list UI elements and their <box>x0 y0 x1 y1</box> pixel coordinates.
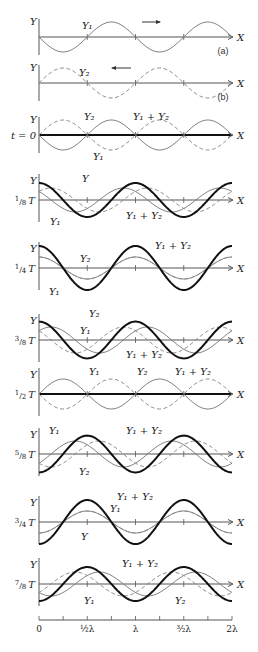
callout-label: Y₁ + Y₂ <box>126 425 162 436</box>
callout-label: Y₁ <box>93 151 104 162</box>
callout-label: Y₁ + Y₂ <box>133 111 169 122</box>
panel-tag: (b) <box>218 92 229 102</box>
callout-label: Y₁ <box>49 286 60 297</box>
callout-label: Y₁ <box>50 216 61 227</box>
y-axis-label: Y <box>30 243 38 254</box>
scale-label: 0 <box>36 624 42 634</box>
y-axis-label: Y <box>30 114 38 125</box>
x-axis-label: X <box>236 130 245 141</box>
callout-label: Y₁ <box>110 503 121 514</box>
callout-label: Y₁ + Y₂ <box>155 240 191 251</box>
time-label: 1/8T <box>15 195 37 207</box>
panel-tag: (a) <box>218 46 229 56</box>
wave-panels: YX(a)Y₁YX(b)Y₂YXt = 0Y₂Y₁ + Y₂Y₁YX1/8TYY… <box>11 16 245 606</box>
x-axis-label: X <box>236 335 245 346</box>
callout-label: Y₂ <box>79 67 90 78</box>
y-axis-label: Y <box>30 497 38 508</box>
x-axis-label: X <box>236 195 245 206</box>
x-axis-label: X <box>236 579 245 590</box>
scale-label: ³⁄₂λ <box>177 624 192 634</box>
callout-label: Y₁ <box>84 595 95 606</box>
y-axis-label: Y <box>30 62 38 73</box>
callout-label: Y₁ <box>80 325 91 336</box>
panel-t78: YX7/8TY₁ + Y₂Y₁Y₂ <box>15 558 245 606</box>
panel-t38: YX3/8TY₂Y₁Y₁ + Y₂ <box>15 308 245 362</box>
x-axis-label: X <box>236 449 245 460</box>
panel-t58: YX5/8TY₁Y₁ + Y₂Y₂ <box>15 425 245 477</box>
x-axis-label: X <box>236 517 245 528</box>
scale-label: λ <box>133 624 139 634</box>
callout-label: Y₁ + Y₂ <box>117 491 153 502</box>
time-label: 5/8T <box>15 449 37 461</box>
panel-a: YX(a)Y₁ <box>30 16 245 56</box>
callout-label: Y <box>82 173 90 184</box>
callout-label: Y₁ + Y₂ <box>122 558 158 569</box>
y-axis-label: Y <box>30 369 38 380</box>
x-axis-label: X <box>236 78 245 89</box>
arrowhead-icon <box>156 20 161 24</box>
callout-label: Y₂ <box>175 595 186 606</box>
callout-label: Y₂ <box>89 308 100 319</box>
callout-label: Y₂ <box>79 466 90 477</box>
callout-label: Y₁ <box>49 425 60 436</box>
callout-label: Y₂ <box>137 366 148 377</box>
callout-label: Y₁ <box>89 366 100 377</box>
scale-label: 2λ <box>226 624 238 634</box>
panel-t18: YX1/8TYY₁Y₁ + Y₂ <box>15 173 245 227</box>
callout-label: Y₁ + Y₂ <box>126 210 162 221</box>
y-axis-label: Y <box>30 429 38 440</box>
y-axis-label: Y <box>30 175 38 186</box>
time-label: 3/4T <box>15 517 37 529</box>
y-axis-label: Y <box>30 315 38 326</box>
arrowhead-icon <box>111 66 116 70</box>
time-label: 1/2T <box>15 389 37 401</box>
panel-b: YX(b)Y₂ <box>30 62 245 102</box>
callout-label: Y₁ <box>82 20 93 31</box>
standing-wave-diagram: YX(a)Y₁YX(b)Y₂YXt = 0Y₂Y₁ + Y₂Y₁YX1/8TYY… <box>0 0 258 652</box>
panel-t14: YX1/4TY₂Y₁Y₁ + Y₂ <box>15 240 245 297</box>
panel-t0: YXt = 0Y₂Y₁ + Y₂Y₁ <box>11 111 245 162</box>
time-label: t = 0 <box>11 130 37 141</box>
time-label: 3/8T <box>15 335 37 347</box>
callout-label: Y <box>81 531 89 542</box>
x-axis-label: X <box>236 263 245 274</box>
wavelength-scale: 0½λλ³⁄₂λ2λ <box>36 616 238 634</box>
x-axis-label: X <box>236 32 245 43</box>
panel-t34: YX3/4TY₁ + Y₂Y₁Y <box>15 491 245 544</box>
callout-label: Y₁ + Y₂ <box>175 366 211 377</box>
time-label: 7/8T <box>15 579 37 591</box>
callout-label: Y₂ <box>84 111 95 122</box>
x-axis-label: X <box>236 389 245 400</box>
panel-t12: YX1/2TY₁Y₂Y₁ + Y₂ <box>15 366 245 416</box>
callout-label: Y₁ + Y₂ <box>126 349 162 360</box>
time-label: 1/4T <box>15 263 37 275</box>
scale-label: ½λ <box>80 624 95 634</box>
callout-label: Y₂ <box>80 253 91 264</box>
y-axis-label: Y <box>30 559 38 570</box>
y-axis-label: Y <box>30 16 38 27</box>
